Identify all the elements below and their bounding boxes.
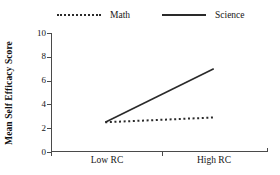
y-tick-label: 4 bbox=[26, 100, 46, 109]
legend-label-science: Science bbox=[215, 10, 245, 20]
legend-label-math: Math bbox=[110, 10, 130, 20]
y-tick-label: 6 bbox=[26, 76, 46, 85]
solid-line-icon bbox=[162, 10, 206, 20]
x-tick-label-high-rc: High RC bbox=[177, 155, 251, 166]
y-tick-label: 8 bbox=[26, 52, 46, 61]
x-axis-tick-labels: Low RC High RC bbox=[51, 155, 268, 169]
y-tick-label: 10 bbox=[26, 29, 46, 38]
plot-area bbox=[51, 33, 268, 152]
series-line-science bbox=[105, 69, 214, 123]
y-axis-title: Mean Self Efficacy Score bbox=[2, 33, 16, 152]
dotted-line-icon bbox=[57, 10, 101, 20]
chart-series-group bbox=[51, 33, 268, 152]
y-axis-title-text: Mean Self Efficacy Score bbox=[4, 41, 14, 145]
series-line-math bbox=[105, 117, 214, 122]
x-tick-label-low-rc: Low RC bbox=[70, 155, 144, 166]
y-tick-label: 0 bbox=[26, 148, 46, 157]
legend-item-science: Science bbox=[162, 6, 245, 24]
chart-figure: Math Science Mean Self Efficacy Score 10… bbox=[0, 0, 280, 175]
y-tick-label: 2 bbox=[26, 124, 46, 133]
legend-item-math: Math bbox=[57, 6, 130, 24]
y-axis-tick-labels: 10 8 6 4 2 0 bbox=[22, 0, 46, 175]
